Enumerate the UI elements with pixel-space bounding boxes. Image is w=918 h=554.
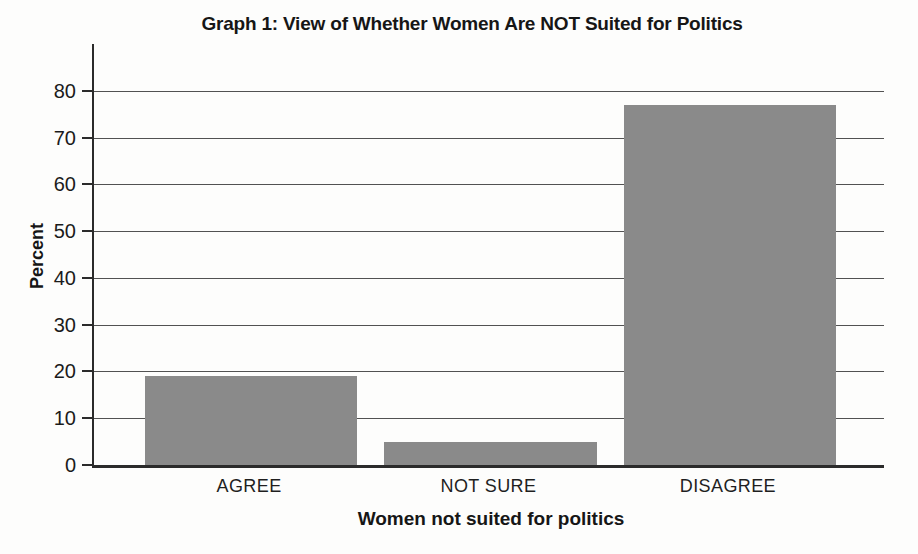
y-tick-label: 50 [0,221,76,241]
x-category-label: DISAGREE [680,476,776,497]
x-category-label: AGREE [217,476,282,497]
y-tick-mark [82,417,92,419]
y-tick-label: 80 [0,81,76,101]
x-category-label: NOT SURE [441,476,537,497]
x-axis-title: Women not suited for politics [358,508,625,530]
y-axis-tick-labels: 01020304050607080 [0,44,76,465]
bar-not-sure [384,442,596,465]
y-tick-mark [82,464,92,466]
y-tick-label: 0 [0,455,76,475]
y-tick-label: 30 [0,315,76,335]
bar-agree [145,376,357,465]
y-tick-mark [82,277,92,279]
y-tick-mark [82,370,92,372]
y-tick-label: 70 [0,128,76,148]
y-tick-mark [82,324,92,326]
y-tick-label: 20 [0,361,76,381]
y-tick-mark [82,90,92,92]
bar-disagree [624,105,836,465]
x-axis-category-labels: AGREENOT SUREDISAGREE [92,476,882,500]
y-tick-label: 10 [0,408,76,428]
chart-title: Graph 1: View of Whether Women Are NOT S… [201,13,742,35]
y-tick-mark [82,137,92,139]
y-tick-label: 60 [0,174,76,194]
bar-chart-figure: Graph 1: View of Whether Women Are NOT S… [0,0,918,554]
y-tick-label: 40 [0,268,76,288]
gridline [94,91,884,92]
plot-area [92,44,884,468]
y-tick-mark [82,230,92,232]
y-tick-mark [82,183,92,185]
